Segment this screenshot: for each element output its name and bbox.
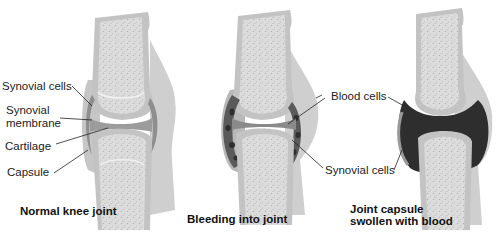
label-cartilage: Cartilage bbox=[5, 140, 51, 153]
diagram-artwork bbox=[0, 0, 498, 234]
label-synovial-cells-normal: Synovial cells bbox=[2, 80, 72, 93]
label-synovial-cells-bleeding: Synovial cells bbox=[325, 164, 395, 177]
caption-bleeding-into-joint: Bleeding into joint bbox=[187, 213, 287, 226]
label-blood-cells: Blood cells bbox=[331, 90, 387, 103]
knee-joint-diagram: Synovial cells Synovial membrane Cartila… bbox=[0, 0, 498, 234]
bleeding-joint-illustration bbox=[221, 10, 325, 225]
caption-normal-knee-joint: Normal knee joint bbox=[20, 205, 117, 218]
label-synovial-membrane-line2: membrane bbox=[6, 117, 61, 130]
label-synovial-membrane-line1: Synovial bbox=[6, 104, 49, 117]
normal-knee-joint-illustration bbox=[54, 12, 176, 230]
swollen-joint-illustration bbox=[316, 8, 492, 230]
caption-swollen-line2: swollen with blood bbox=[350, 215, 453, 228]
label-capsule: Capsule bbox=[7, 166, 49, 179]
